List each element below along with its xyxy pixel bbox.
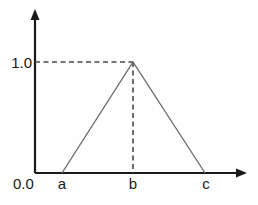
- y-axis-tick-label-1: 1.0: [0, 55, 32, 70]
- y-axis-arrow-icon: [31, 9, 40, 20]
- x-axis-tick-label-c: c: [196, 176, 216, 191]
- triangular-membership-function-figure: 1.0 0.0 a b c: [0, 0, 258, 205]
- x-axis-arrow-icon: [236, 169, 247, 178]
- origin-tick-label: 0.0: [13, 176, 34, 191]
- x-axis-tick-label-b: b: [123, 176, 143, 191]
- x-axis-tick-label-a: a: [52, 176, 72, 191]
